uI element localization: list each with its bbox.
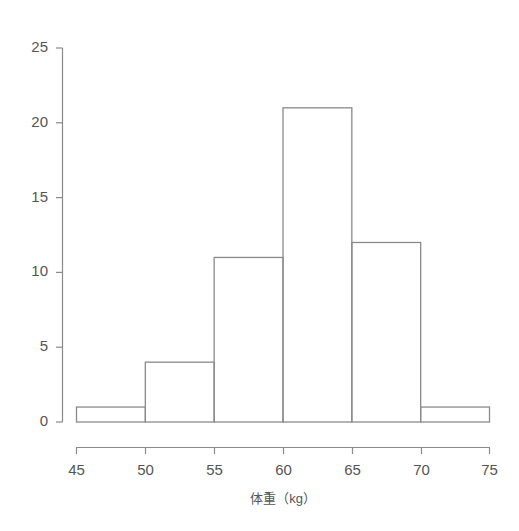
x-tick-label-70: 70 <box>413 461 430 478</box>
y-tick-label-20: 20 <box>31 113 48 130</box>
histogram-plot: 25 20 15 10 5 0 45 50 55 60 65 70 75 <box>0 0 519 531</box>
x-tick-label-55: 55 <box>206 461 223 478</box>
y-tick-label-5: 5 <box>40 337 48 354</box>
y-axis-group: 25 20 15 10 5 0 <box>31 38 62 429</box>
y-tick-label-0: 0 <box>40 412 48 429</box>
x-tick-label-45: 45 <box>68 461 85 478</box>
x-tick-label-60: 60 <box>275 461 292 478</box>
y-tick-label-15: 15 <box>31 188 48 205</box>
histogram-bars <box>77 108 490 422</box>
y-tick-label-10: 10 <box>31 262 48 279</box>
x-tick-label-75: 75 <box>481 461 498 478</box>
histogram-bar <box>214 257 283 422</box>
x-axis-title: 体重（kg） <box>250 491 316 506</box>
histogram-figure: 25 20 15 10 5 0 45 50 55 60 65 70 75 <box>0 0 519 531</box>
x-axis-group: 45 50 55 60 65 70 75 <box>68 448 498 479</box>
histogram-bar <box>283 108 352 422</box>
histogram-bar <box>77 407 146 422</box>
histogram-bar <box>352 242 421 422</box>
histogram-bar <box>145 362 214 422</box>
x-tick-label-65: 65 <box>344 461 361 478</box>
x-tick-label-50: 50 <box>137 461 154 478</box>
y-tick-label-25: 25 <box>31 38 48 55</box>
histogram-bar <box>421 407 490 422</box>
